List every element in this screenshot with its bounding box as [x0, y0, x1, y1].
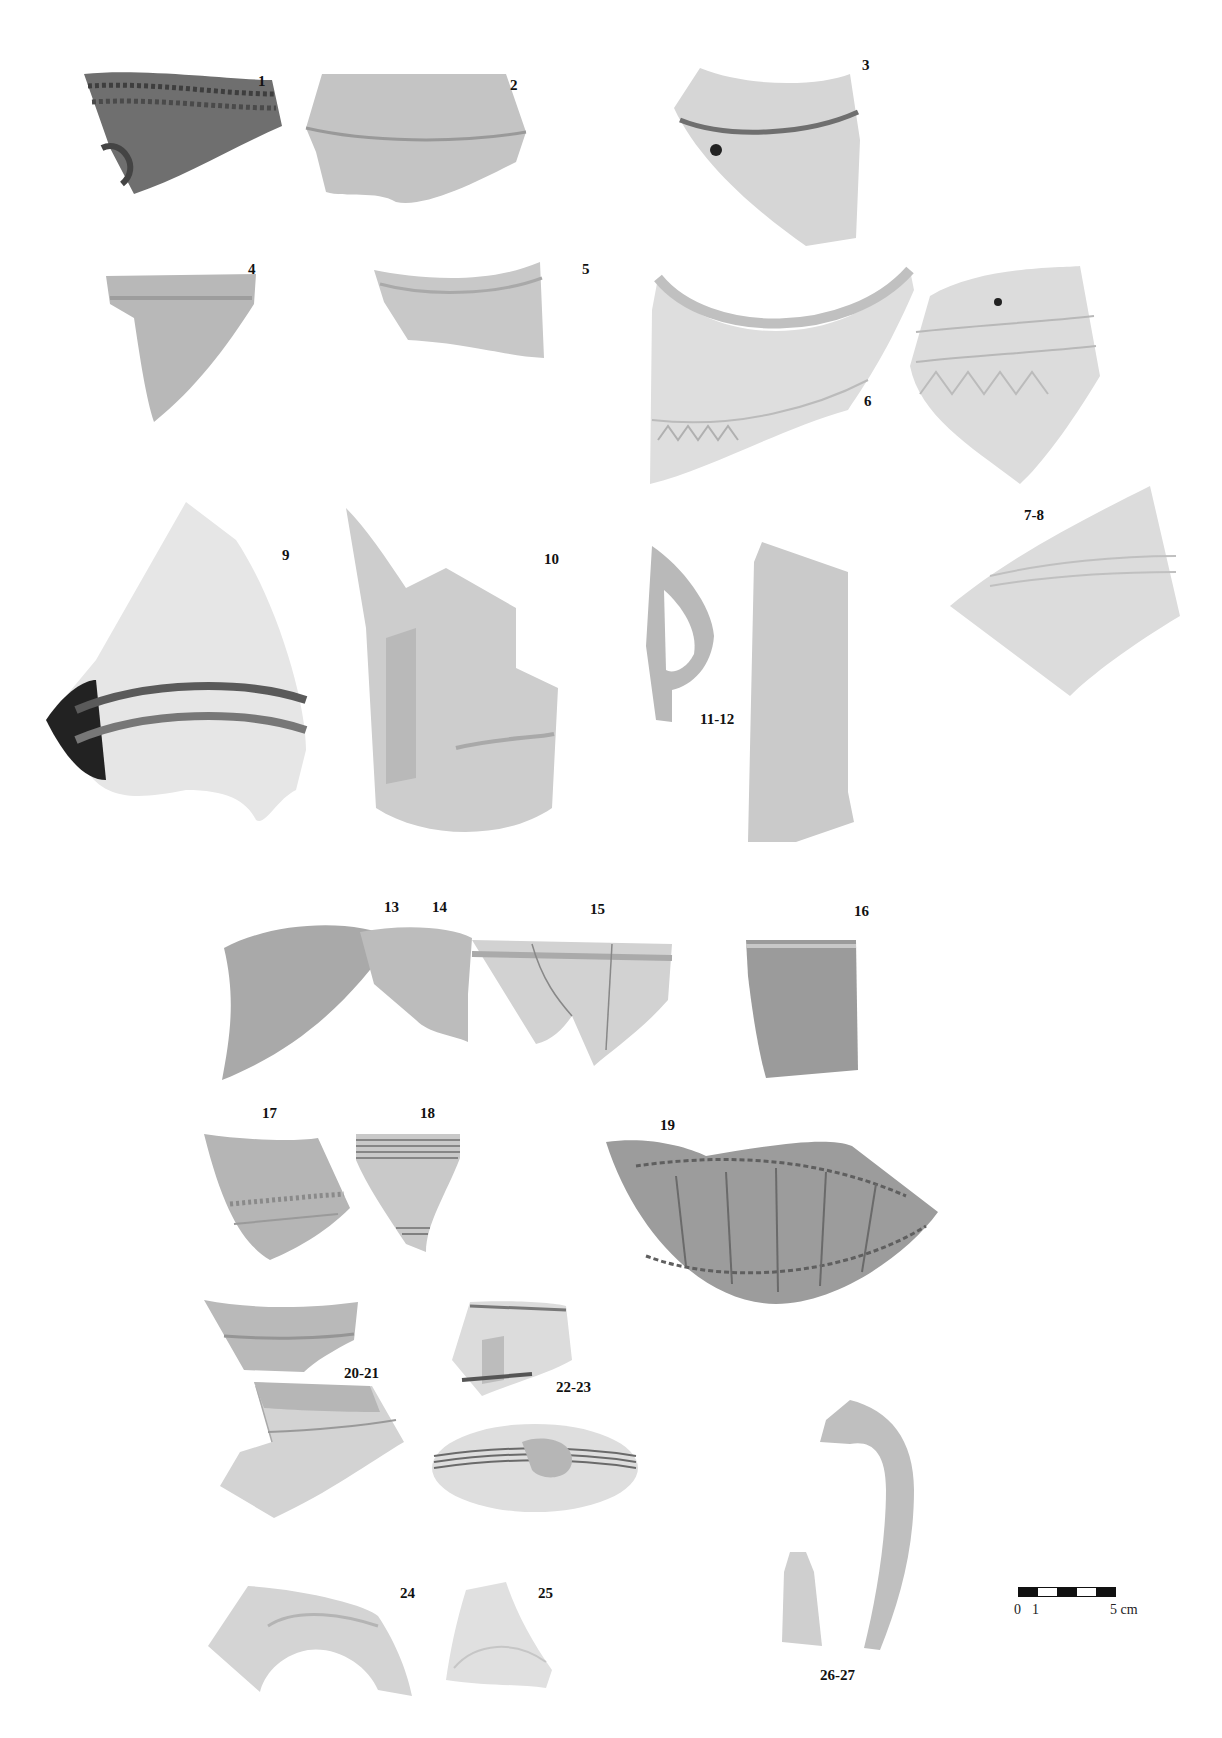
- sherd-3: [670, 64, 870, 248]
- sherd-18: [356, 1134, 462, 1252]
- scale-segment: [1057, 1588, 1076, 1596]
- sherd-1: [82, 68, 282, 198]
- sherd-4: [106, 268, 256, 426]
- sherd-label-4: 4: [248, 262, 256, 277]
- sherd-20: [204, 1300, 358, 1372]
- sherd-label-13: 13: [384, 900, 399, 915]
- sherd-5: [374, 262, 544, 366]
- sherd-14: [360, 924, 474, 1042]
- sherd-23: [432, 1420, 638, 1516]
- sherd-label-19: 19: [660, 1118, 675, 1133]
- sherd-label-11-12: 11-12: [700, 712, 734, 727]
- sherd-17: [204, 1134, 350, 1260]
- sherd-16: [744, 940, 858, 1078]
- scale-segment: [1096, 1588, 1115, 1596]
- scale-label-one: 1: [1032, 1602, 1039, 1618]
- sherd-27: [820, 1400, 920, 1650]
- sherd-label-18: 18: [420, 1106, 435, 1121]
- pottery-plate: 1 2 3 4 5 6 7-8: [0, 0, 1222, 1738]
- sherd-2: [306, 72, 526, 212]
- sherd-label-22-23: 22-23: [556, 1380, 591, 1395]
- sherd-7: [910, 266, 1100, 484]
- sherd-label-5: 5: [582, 262, 590, 277]
- sherd-9: [46, 500, 312, 826]
- sherd-label-26-27: 26-27: [820, 1668, 855, 1683]
- sherd-label-9: 9: [282, 548, 290, 563]
- sherd-label-20-21: 20-21: [344, 1366, 379, 1381]
- sherd-21: [220, 1382, 404, 1518]
- sherd-6: [648, 270, 920, 484]
- sherd-label-10: 10: [544, 552, 559, 567]
- sherd-8: [950, 486, 1180, 696]
- sherd-19: [606, 1136, 938, 1304]
- sherd-24: [208, 1586, 414, 1696]
- sherd-10: [346, 508, 558, 840]
- sherd-label-3: 3: [862, 58, 870, 73]
- sherd-11: [642, 546, 714, 722]
- scale-bar: [1018, 1587, 1116, 1597]
- scale-segment: [1038, 1588, 1057, 1596]
- sherd-22: [452, 1300, 572, 1396]
- sherd-label-14: 14: [432, 900, 447, 915]
- sherd-12: [748, 542, 858, 842]
- sherd-label-6: 6: [864, 394, 872, 409]
- scale-segment: [1077, 1588, 1096, 1596]
- scale-segment: [1019, 1588, 1038, 1596]
- scale-label-five-cm: 5 cm: [1110, 1602, 1138, 1618]
- sherd-label-16: 16: [854, 904, 869, 919]
- sherd-label-1: 1: [258, 74, 266, 89]
- sherd-label-15: 15: [590, 902, 605, 917]
- sherd-26: [780, 1552, 824, 1646]
- sherd-label-2: 2: [510, 78, 518, 93]
- scale-label-zero: 0: [1014, 1602, 1021, 1618]
- sherd-label-17: 17: [262, 1106, 277, 1121]
- sherd-15: [472, 940, 672, 1066]
- sherd-25: [446, 1582, 552, 1692]
